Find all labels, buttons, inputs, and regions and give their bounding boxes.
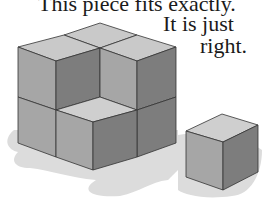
caption-line-3: right. [200, 33, 247, 59]
